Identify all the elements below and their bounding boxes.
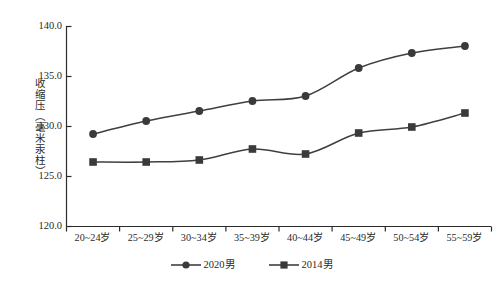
data-point-circle xyxy=(142,117,150,125)
line-chart: 收缩压（毫米汞柱） 140.0 135.0 130.0 125.0 120.0 xyxy=(0,0,503,282)
data-point-square xyxy=(196,156,204,164)
data-point-circle xyxy=(89,130,97,138)
x-tick-label: 55~59岁 xyxy=(438,231,491,249)
x-axis-tick-labels: 20~24岁 25~29岁 30~34岁 35~39岁 40~44岁 45~49… xyxy=(66,231,491,249)
x-tick-label: 45~49岁 xyxy=(332,231,385,249)
data-point-circle xyxy=(408,49,416,57)
legend-label: 2020男 xyxy=(204,259,235,271)
data-point-square xyxy=(249,145,257,153)
data-point-circle xyxy=(355,64,363,72)
data-point-circle xyxy=(195,107,203,115)
legend-item-2020: 2020男 xyxy=(171,259,235,271)
data-point-square xyxy=(142,158,150,166)
data-point-circle xyxy=(302,92,310,100)
chart-legend: 2020男 2014男 xyxy=(0,254,503,276)
x-tick-label: 40~44岁 xyxy=(279,231,332,249)
data-point-square xyxy=(355,129,363,137)
data-point-circle xyxy=(461,42,469,50)
x-tick-label: 50~54岁 xyxy=(385,231,438,249)
legend-label: 2014男 xyxy=(302,259,333,271)
x-tick-label: 25~29岁 xyxy=(119,231,172,249)
legend-item-2014: 2014男 xyxy=(269,259,333,271)
data-point-square xyxy=(461,109,469,117)
data-point-square xyxy=(302,150,310,158)
x-tick-label: 35~39岁 xyxy=(225,231,278,249)
legend-marker-square-icon xyxy=(269,259,299,271)
data-point-square xyxy=(89,158,97,166)
x-tick-label: 30~34岁 xyxy=(172,231,225,249)
data-point-square xyxy=(408,123,416,131)
legend-marker-circle-icon xyxy=(171,259,201,271)
y-axis-ticks xyxy=(67,27,72,227)
x-tick-label: 20~24岁 xyxy=(66,231,119,249)
data-point-circle xyxy=(249,97,257,105)
